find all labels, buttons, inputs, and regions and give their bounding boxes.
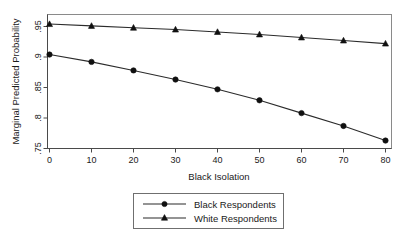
data-series-layer <box>46 21 388 143</box>
legend-label-white: White Respondents <box>194 213 277 224</box>
x-tick-label: 20 <box>128 155 138 165</box>
x-tick-label: 60 <box>296 155 306 165</box>
x-tick-label: 50 <box>254 155 264 165</box>
circle-marker <box>299 110 304 115</box>
circle-marker <box>89 59 94 64</box>
series-triangle <box>46 21 388 46</box>
chart-figure: .95 .9 .85 .8 .75 Marginal Predicted Pro… <box>0 0 401 237</box>
y-tick-label: .9 <box>33 53 43 61</box>
y-tick-label: .95 <box>33 20 43 33</box>
x-tick-label: 10 <box>86 155 96 165</box>
y-tick-label: .8 <box>33 114 43 122</box>
x-tick-label: 30 <box>170 155 180 165</box>
marginal-predicted-probability-chart: .95 .9 .85 .8 .75 Marginal Predicted Pro… <box>0 0 401 237</box>
series-circle <box>47 52 388 143</box>
x-tick-label: 70 <box>338 155 348 165</box>
x-tick-label: 0 <box>47 155 52 165</box>
x-axis-ticks <box>50 149 386 153</box>
x-tick-label: 80 <box>380 155 390 165</box>
circle-marker <box>162 201 167 206</box>
circle-marker <box>47 52 52 57</box>
legend-label-black: Black Respondents <box>194 199 276 210</box>
x-axis-tick-labels: 0 10 20 30 40 50 60 70 80 <box>47 155 391 165</box>
circle-marker <box>215 87 220 92</box>
y-axis-ticks <box>44 27 48 149</box>
circle-marker <box>383 138 388 143</box>
circle-marker <box>173 77 178 82</box>
y-tick-label: .85 <box>33 81 43 94</box>
circle-marker <box>341 123 346 128</box>
x-tick-label: 40 <box>212 155 222 165</box>
circle-marker <box>131 68 136 73</box>
y-axis-tick-labels: .95 .9 .85 .8 .75 <box>33 20 43 155</box>
x-axis-title: Black Isolation <box>188 171 249 182</box>
circle-marker <box>257 98 262 103</box>
series-line <box>50 55 386 141</box>
y-tick-label: .75 <box>33 142 43 155</box>
y-axis-title: Marginal Predicted Probability <box>10 18 21 144</box>
chart-legend: Black Respondents White Respondents <box>134 194 284 229</box>
